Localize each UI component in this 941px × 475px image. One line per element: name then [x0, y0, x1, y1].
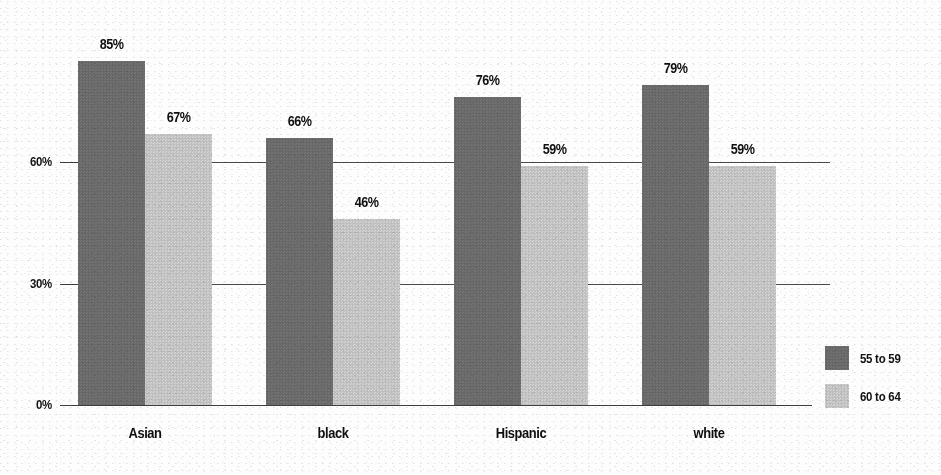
bar-value-label: 67%	[150, 108, 206, 125]
y-tick-mark-60	[60, 162, 78, 163]
category-label-black: black	[275, 424, 390, 441]
legend-label: 55 to 59	[860, 351, 900, 366]
bar-asian-55-to-59	[78, 61, 145, 405]
bar-chart: 0%30%60% 85%67%66%46%76%59%79%59% Asianb…	[0, 0, 941, 475]
bar-value-label: 85%	[83, 35, 139, 52]
bar-value-label: 76%	[459, 71, 515, 88]
legend-label: 60 to 64	[860, 389, 900, 404]
bar-black-60-to-64	[333, 219, 400, 405]
y-tick-label-60: 60%	[6, 154, 52, 169]
bar-white-60-to-64	[709, 166, 776, 405]
chart-legend: 55 to 5960 to 64	[825, 339, 906, 415]
bar-value-label: 46%	[338, 193, 394, 210]
y-tick-label-0: 0%	[6, 397, 52, 412]
bar-asian-60-to-64	[145, 134, 212, 405]
bar-value-label: 59%	[526, 140, 582, 157]
legend-item-55-to-59[interactable]: 55 to 59	[825, 339, 906, 377]
category-label-hispanic: Hispanic	[463, 424, 578, 441]
bar-black-55-to-59	[266, 138, 333, 405]
legend-item-60-to-64[interactable]: 60 to 64	[825, 377, 906, 415]
category-label-asian: Asian	[87, 424, 202, 441]
legend-swatch-icon	[825, 346, 849, 370]
y-tick-label-30: 30%	[6, 276, 52, 291]
bar-white-55-to-59	[642, 85, 709, 405]
legend-swatch-icon	[825, 384, 849, 408]
category-label-white: white	[651, 424, 766, 441]
bar-value-label: 79%	[647, 59, 703, 76]
bar-value-label: 59%	[714, 140, 770, 157]
y-tick-mark-30	[60, 284, 78, 285]
bar-hispanic-60-to-64	[521, 166, 588, 405]
bar-value-label: 66%	[271, 112, 327, 129]
plot-area: 85%67%66%46%76%59%79%59%	[78, 20, 830, 405]
bar-hispanic-55-to-59	[454, 97, 521, 405]
axis-baseline	[78, 405, 812, 406]
y-tick-mark-0	[60, 405, 78, 406]
